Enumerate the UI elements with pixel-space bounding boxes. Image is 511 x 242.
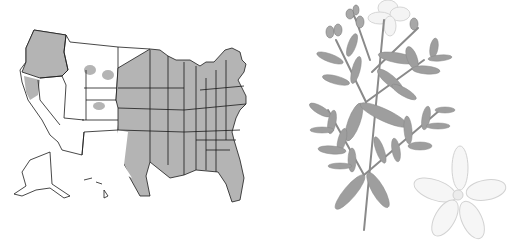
range-patch: [102, 70, 114, 80]
plant-graphic: [300, 0, 511, 242]
northwest-states: [22, 30, 68, 78]
plant-illustration: [300, 0, 511, 242]
hawaii: [84, 178, 108, 198]
open-flower: [411, 146, 508, 242]
us-map-graphic: [0, 0, 260, 242]
central-eastern-states: [116, 48, 246, 202]
top-flower: [368, 0, 410, 36]
range-patch: [93, 102, 105, 110]
distribution-map: [0, 0, 260, 242]
alaska: [14, 152, 70, 198]
